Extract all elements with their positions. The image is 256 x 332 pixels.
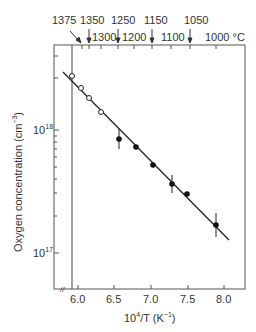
- xtick-8.0: 8.0: [216, 293, 231, 305]
- y-axis-ticks: [54, 56, 59, 253]
- x-axis-ticks: [78, 285, 224, 289]
- y-axis-label: Oxygen concentration (cm−3): [11, 112, 24, 252]
- x-axis-label: 104/T (K−1): [124, 311, 175, 324]
- data-point: [213, 222, 219, 228]
- ytick-1e17: 1017: [33, 246, 53, 259]
- top-axis-ticks: [82, 45, 216, 49]
- data-point: [70, 74, 75, 79]
- data-point: [87, 96, 92, 101]
- xtick-6.0: 6.0: [70, 293, 85, 305]
- top-label-1050: 1050: [184, 14, 208, 26]
- top-label-1100: 1100: [161, 31, 185, 43]
- top-label-1375: 1375: [52, 14, 76, 26]
- top-label-1150: 1150: [144, 14, 168, 26]
- top-label-1350: 1350: [80, 14, 104, 26]
- top-label-1250: 1250: [111, 14, 135, 26]
- data-point: [169, 181, 175, 187]
- top-label-1300: 1300: [92, 31, 116, 43]
- xtick-6.5: 6.5: [106, 293, 121, 305]
- data-point: [133, 144, 139, 150]
- plot-frame: [54, 45, 245, 289]
- ytick-1e18: 1018: [33, 123, 53, 136]
- xtick-7.0: 7.0: [143, 293, 158, 305]
- data-point: [116, 136, 122, 142]
- data-point: [184, 191, 190, 197]
- axis-break-mark: //: [59, 285, 65, 294]
- error-bars: [119, 129, 216, 237]
- top-label-1200: 1200: [122, 31, 146, 43]
- data-point: [150, 162, 156, 168]
- xtick-7.5: 7.5: [180, 293, 195, 305]
- chart: 1375 1350 1250 1150 1050 1300 1200 1100 …: [0, 0, 256, 332]
- data-point: [99, 110, 104, 115]
- top-label-1000: 1000 °C: [205, 31, 245, 43]
- data-point: [79, 86, 84, 91]
